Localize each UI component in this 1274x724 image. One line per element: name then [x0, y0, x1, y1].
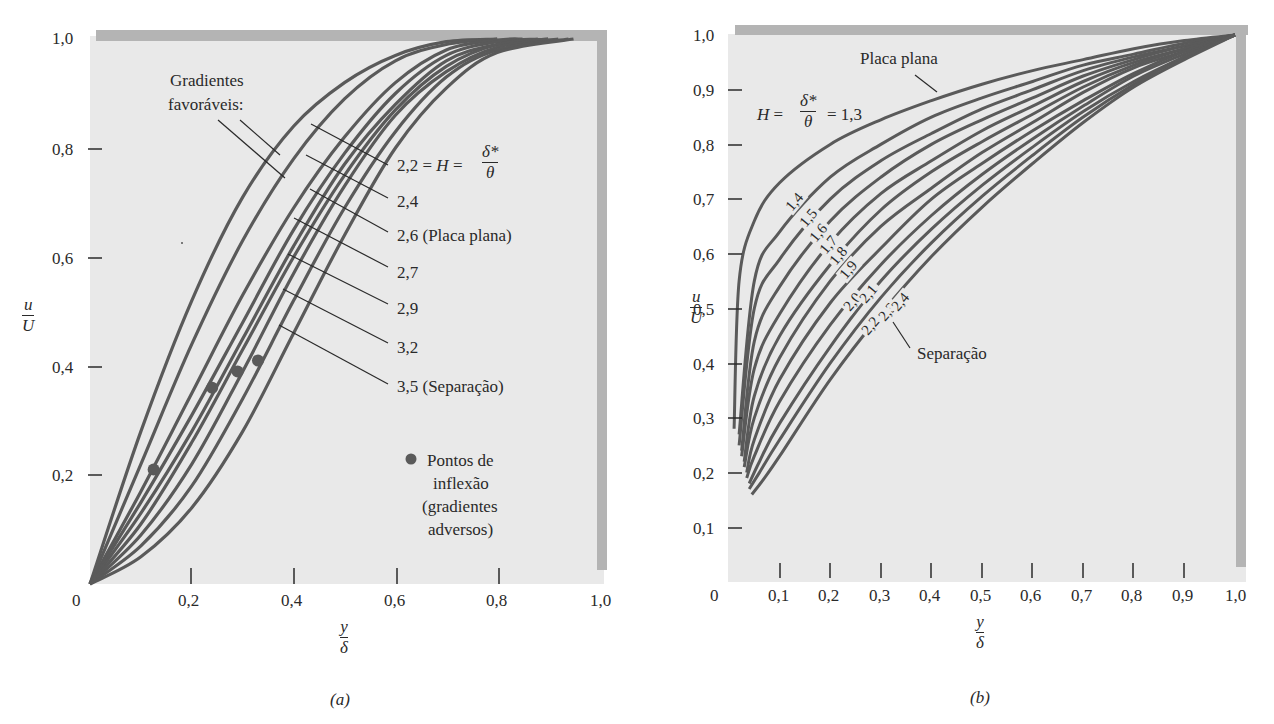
frame-right-b [1236, 25, 1246, 567]
ytick-label: 0,3 [693, 410, 714, 427]
xtick-label: 0,1 [768, 587, 789, 604]
caption-b: (b) [970, 688, 990, 708]
y-axis-label-b: uU [690, 288, 702, 327]
chart-b: 1,41,51,61,71,81,92,02,12,22,32,4 1,0 0,… [0, 0, 1274, 724]
xtick-label: 0,6 [1020, 587, 1041, 604]
separation-label: Separação [917, 345, 987, 362]
H-fraction-b: δ*θ [800, 92, 816, 131]
xtick-label: 0,7 [1071, 587, 1092, 604]
ytick-label: 1,0 [693, 27, 714, 44]
xtick-label: 1,0 [1225, 587, 1246, 604]
x-axis-num: y [976, 613, 984, 631]
xtick-label: 0,8 [1121, 587, 1142, 604]
ytick-label: 0,9 [693, 82, 714, 99]
y-axis-den: U [690, 309, 702, 327]
H-num: δ* [800, 92, 816, 110]
H-den: θ [804, 113, 812, 131]
xtick-label: 0,5 [970, 587, 991, 604]
flat-plate-label: Placa plana [860, 50, 938, 67]
ytick-label: 0,1 [693, 520, 714, 537]
H-label: H = [757, 106, 783, 123]
ytick-label: 0,4 [693, 356, 714, 373]
ytick-label: 0,6 [693, 246, 714, 263]
x-axis-label-b: yδ [976, 613, 984, 652]
frame-top-b [735, 25, 1248, 35]
xtick-label: 0,2 [818, 587, 839, 604]
xtick-label: 0,4 [919, 587, 940, 604]
x-axis-den: δ [976, 634, 984, 652]
xtick-label: 0,9 [1172, 587, 1193, 604]
chart-b-canvas: 1,41,51,61,71,81,92,02,12,22,32,4 [0, 0, 1274, 724]
ytick-label: 0,8 [693, 137, 714, 154]
xtick-label: 0,3 [869, 587, 890, 604]
xtick-label: 0 [710, 587, 719, 604]
ytick-label: 0,7 [693, 191, 714, 208]
y-axis-num: u [692, 288, 701, 306]
ytick-label: 0,2 [693, 465, 714, 482]
H-value-label: = 1,3 [827, 106, 862, 123]
